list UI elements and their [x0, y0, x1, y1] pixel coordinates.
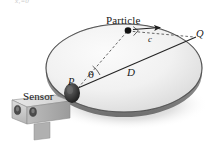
particle-dot	[125, 27, 132, 34]
point-q-label: Q	[196, 29, 204, 40]
sensor-label: Sensor	[23, 91, 54, 102]
angle-theta-label: θ	[88, 70, 94, 80]
chord-segment-label: c	[148, 35, 152, 44]
diameter-label: D	[127, 67, 135, 78]
top-text-fragment: x₁=0	[15, 0, 29, 5]
point-p-label: P	[68, 77, 74, 88]
particle-label: Particle	[106, 15, 140, 26]
figure-container: x₁=0 Particle Sensor Q P D c θ	[0, 0, 219, 141]
